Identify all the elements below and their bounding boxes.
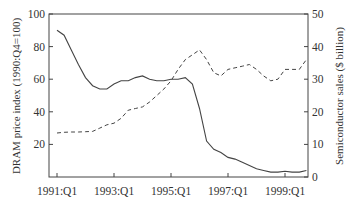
left-axis-title: DRAM price index (1990:Q4=100) bbox=[10, 18, 23, 175]
x-tick-label: 1991:Q1 bbox=[37, 185, 78, 197]
dram-price-index-line bbox=[57, 30, 306, 172]
right-tick-label: 0 bbox=[312, 171, 318, 183]
dual-axis-line-chart: 20406080100 01020304050 1991:Q11993:Q119… bbox=[0, 0, 352, 205]
right-tick-label: 10 bbox=[312, 138, 324, 150]
left-tick-label: 20 bbox=[34, 138, 46, 150]
x-tick-label: 1997:Q1 bbox=[208, 185, 249, 197]
right-tick-label: 40 bbox=[312, 41, 324, 53]
plot-frame bbox=[49, 14, 308, 177]
left-tick-label: 80 bbox=[34, 41, 46, 53]
x-tick-label: 1999:Q1 bbox=[265, 185, 306, 197]
left-tick-label: 40 bbox=[34, 106, 46, 118]
semiconductor-sales-line bbox=[57, 50, 306, 133]
left-tick-label: 100 bbox=[28, 8, 46, 20]
x-tick-label: 1995:Q1 bbox=[151, 185, 192, 197]
x-tick-label: 1993:Q1 bbox=[94, 185, 135, 197]
right-tick-label: 30 bbox=[312, 73, 324, 85]
right-tick-label: 20 bbox=[312, 106, 324, 118]
right-y-axis: 01020304050 bbox=[304, 8, 324, 183]
left-tick-label: 60 bbox=[34, 73, 46, 85]
right-axis-title: Semiconductor sales ($ billion) bbox=[333, 27, 346, 165]
right-tick-label: 50 bbox=[312, 8, 324, 20]
